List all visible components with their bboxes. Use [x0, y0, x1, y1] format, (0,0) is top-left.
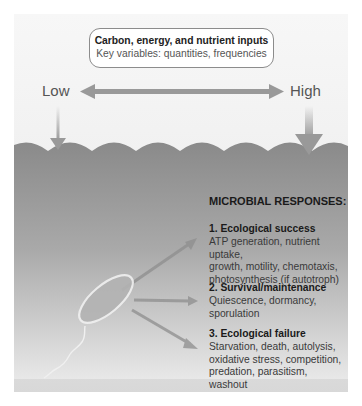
response-line: growth, motility, chemotaxis, — [209, 261, 348, 274]
response-heading: 1. Ecological success — [209, 223, 348, 236]
response-item-success: 1. Ecological success ATP generation, nu… — [209, 223, 348, 287]
response-item-failure: 3. Ecological failure Starvation, death,… — [209, 328, 348, 392]
response-line: oxidative stress, competition, — [209, 354, 348, 367]
response-line: Starvation, death, autolysis, — [209, 341, 348, 354]
response-line: predation, parasitism, washout — [209, 366, 348, 392]
response-line: Quiescence, dormancy, — [209, 295, 326, 308]
diagram-panel: Carbon, energy, and nutrient inputs Key … — [14, 14, 348, 392]
high-label: High — [290, 82, 321, 99]
low-label: Low — [42, 82, 70, 99]
inputs-subtitle: Key variables: quantities, frequencies — [90, 47, 273, 60]
inputs-box: Carbon, energy, and nutrient inputs Key … — [89, 28, 274, 68]
response-item-survival: 2. Survival/maintenance Quiescence, dorm… — [209, 282, 326, 320]
responses-title: MICROBIAL RESPONSES: — [209, 195, 346, 207]
response-heading: 2. Survival/maintenance — [209, 282, 326, 295]
inputs-title: Carbon, energy, and nutrient inputs — [90, 34, 273, 47]
response-line: sporulation — [209, 308, 326, 321]
response-line: ATP generation, nutrient uptake, — [209, 236, 348, 262]
response-heading: 3. Ecological failure — [209, 328, 348, 341]
